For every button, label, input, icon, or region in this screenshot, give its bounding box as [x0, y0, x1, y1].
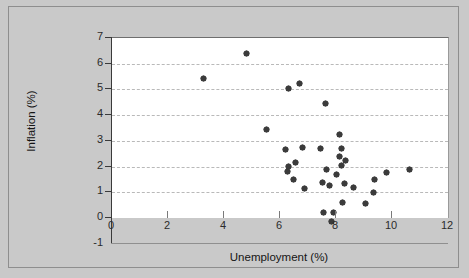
scatter-point [285, 85, 292, 92]
x-tick-10 [391, 211, 392, 218]
x-tick-label-8: 8 [323, 220, 347, 231]
scatter-point [362, 200, 369, 207]
scatter-point [290, 176, 297, 183]
gridline-y-6 [112, 64, 448, 65]
y-tick-4 [105, 114, 112, 115]
scatter-point [316, 145, 323, 152]
scatter-point [371, 176, 378, 183]
y-tick-label--1: -1 [77, 237, 103, 248]
y-tick-0 [105, 217, 112, 218]
x-tick-2 [167, 211, 168, 218]
scatter-point [318, 179, 325, 186]
y-tick-label-1: 1 [77, 185, 103, 196]
x-axis-title: Unemployment (%) [111, 251, 447, 263]
x-tick-8 [335, 211, 336, 218]
x-tick-label-10: 10 [379, 220, 403, 231]
scatter-point [299, 144, 306, 151]
scatter-point [339, 199, 346, 206]
plot-bottom-border [111, 243, 448, 244]
y-tick-label-7: 7 [77, 31, 103, 42]
y-tick-1 [105, 191, 112, 192]
scatter-point [370, 189, 377, 196]
scatter-point [322, 100, 329, 107]
gridline-y-4 [112, 115, 448, 116]
scatter-point [338, 145, 345, 152]
scatter-point [281, 146, 288, 153]
y-tick-7 [105, 37, 112, 38]
x-tick-label-2: 2 [155, 220, 179, 231]
scatter-point [323, 166, 330, 173]
scatter-point [243, 50, 250, 57]
gridline-y-3 [112, 141, 448, 142]
scatter-point [295, 79, 302, 86]
y-tick-2 [105, 166, 112, 167]
chart-frame: -101234567 024681012 Unemployment (%) In… [8, 6, 459, 268]
scatter-point [263, 126, 270, 133]
scatter-point [320, 209, 327, 216]
chart-figure: -101234567 024681012 Unemployment (%) In… [0, 0, 469, 278]
x-tick-label-12: 12 [435, 220, 459, 231]
scatter-point [284, 168, 291, 175]
scatter-point [332, 171, 339, 178]
scatter-point [383, 169, 390, 176]
gridline-y-5 [112, 89, 448, 90]
y-tick-label-3: 3 [77, 134, 103, 145]
scatter-point [336, 131, 343, 138]
scatter-point [406, 166, 413, 173]
scatter-point [199, 75, 206, 82]
y-tick-label-4: 4 [77, 108, 103, 119]
x-tick-label-0: 0 [99, 220, 123, 231]
scatter-point [350, 184, 357, 191]
scatter-point [341, 180, 348, 187]
scatter-point [326, 182, 333, 189]
scatter-point [337, 162, 344, 169]
scatter-point [292, 159, 299, 166]
plot-area [111, 37, 449, 218]
x-tick-label-4: 4 [211, 220, 235, 231]
y-tick-label-5: 5 [77, 82, 103, 93]
x-tick-6 [279, 211, 280, 218]
y-tick-label-2: 2 [77, 160, 103, 171]
y-tick-6 [105, 63, 112, 64]
x-tick-label-6: 6 [267, 220, 291, 231]
gridline-y-2 [112, 167, 448, 168]
y-axis-title: Inflation (%) [25, 61, 37, 181]
y-tick-3 [105, 140, 112, 141]
y-tick-label-6: 6 [77, 57, 103, 68]
gridline-y-1 [112, 192, 448, 193]
y-tick-5 [105, 88, 112, 89]
x-tick-4 [223, 211, 224, 218]
